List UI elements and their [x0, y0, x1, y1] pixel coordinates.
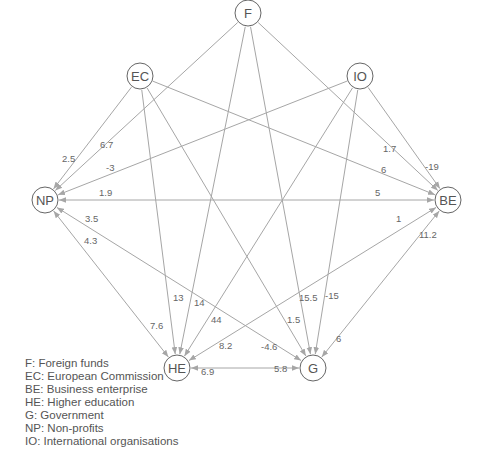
legend-item-european-commission: EC: European Commission [25, 370, 178, 383]
edge-value-label: 1.9 [99, 187, 112, 198]
edge-value-label: -15 [325, 290, 339, 301]
edge-value-label: 1.5 [287, 314, 300, 325]
node-io: IO [347, 63, 373, 89]
edge-value-label: 6 [381, 164, 386, 175]
edge-value-label: -3 [106, 162, 114, 173]
legend-item-non-profits: NP: Non-profits [25, 422, 178, 435]
edge-ec-he [142, 90, 175, 354]
edge-value-label: 1.7 [383, 143, 396, 154]
edge-value-label: 2.5 [62, 153, 75, 164]
edge-value-label: -4.6 [261, 341, 277, 352]
edge-value-label: 11.2 [419, 229, 437, 240]
edge-value-label: 14 [194, 297, 205, 308]
edge-value-label: 7.6 [150, 320, 163, 331]
edge-ec-np [54, 87, 132, 189]
legend-item-foreign-funds: F: Foreign funds [25, 357, 178, 370]
edge-value-label: -19 [425, 161, 439, 172]
edge-value-label: 15.5 [299, 292, 318, 303]
node-label: IO [353, 69, 367, 84]
legend-item-higher-education: HE: Higher education [25, 396, 178, 409]
edge-labels-layer: 2.56.7-361.7-191314441.515.5-151.953.5-4… [62, 139, 439, 377]
edge-io-be [368, 87, 440, 188]
edge-np-g [57, 207, 301, 360]
edge-value-label: 6.9 [201, 366, 214, 377]
edge-io-np [58, 81, 347, 195]
edge-be-he [189, 207, 436, 360]
legend: F: Foreign funds EC: European Commission… [25, 357, 178, 448]
edge-f-g [251, 27, 311, 354]
node-label: EC [131, 69, 149, 84]
edge-value-label: 8.2 [219, 340, 232, 351]
edge-value-label: 44 [211, 314, 222, 325]
edge-ec-be [153, 81, 435, 195]
edge-value-label: 6.7 [100, 139, 113, 150]
node-label: G [308, 361, 318, 376]
node-f: F [235, 0, 261, 26]
edge-f-be [258, 23, 438, 191]
edge-value-label: 3.5 [85, 213, 98, 224]
edge-value-label: 1 [396, 213, 401, 224]
edge-value-label: 13 [173, 292, 184, 303]
edge-f-np [55, 22, 237, 190]
edge-value-label: 5 [375, 187, 380, 198]
node-be: BE [435, 187, 461, 213]
edge-value-label: 6 [336, 333, 341, 344]
node-label: F [244, 6, 252, 21]
node-label: BE [439, 193, 457, 208]
edge-io-g [315, 90, 358, 354]
edge-np-he [54, 211, 169, 357]
node-label: NP [36, 193, 54, 208]
legend-item-business-enterprise: BE: Business enterprise [25, 383, 178, 396]
node-g: G [300, 355, 326, 381]
legend-item-government: G: Government [25, 409, 178, 422]
nodes-layer: FECIONPBEHEG [32, 0, 461, 381]
legend-item-international-organisations: IO: International organisations [25, 435, 178, 448]
edge-value-label: 4.3 [84, 235, 97, 246]
edge-value-label: 5.8 [274, 363, 287, 374]
node-ec: EC [127, 63, 153, 89]
node-np: NP [32, 187, 58, 213]
